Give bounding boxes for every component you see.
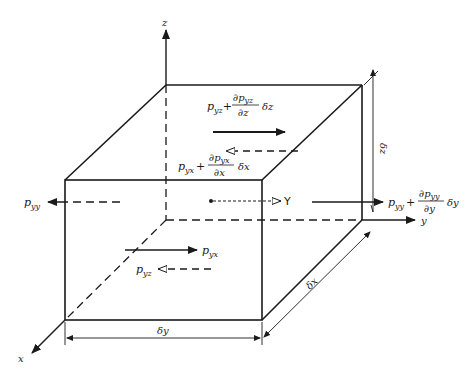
svg-text:δy: δy [447, 197, 459, 208]
svg-text:∂y: ∂y [424, 203, 435, 214]
x-axis-label: x [18, 353, 24, 364]
pyz-top-label: pyz+ ∂pyz ∂z δz [207, 92, 274, 118]
body-force-label: Y [283, 195, 291, 208]
x-axis [32, 320, 65, 353]
svg-text:∂z: ∂z [238, 107, 249, 118]
pyy-left-label: pyy [24, 196, 41, 211]
axes [32, 30, 415, 353]
svg-text:∂pyy: ∂pyy [419, 188, 440, 201]
body-force-point [209, 199, 213, 203]
pyx-front-label: pyx+ ∂pyx ∂x δx [178, 152, 250, 178]
pyx-label: pyx [202, 244, 219, 259]
y-axis-label: y [420, 215, 427, 226]
svg-text:∂pyz: ∂pyz [233, 92, 254, 105]
dx-label: δx [304, 275, 320, 291]
svg-text:∂x: ∂x [214, 167, 225, 178]
svg-text:∂pyx: ∂pyx [209, 152, 230, 165]
svg-text:δx: δx [238, 161, 250, 172]
svg-text:δz: δz [262, 101, 274, 112]
pyy-right-label: pyy+ ∂pyy ∂y δy [388, 188, 459, 214]
svg-text:pyz+: pyz+ [207, 100, 232, 115]
stress-element-diagram: z y x δy δz δx pyy Y [0, 0, 475, 377]
pyz-bottom-label: pyz [136, 263, 153, 278]
dz-label: δz [378, 143, 389, 155]
z-axis-label: z [161, 17, 168, 28]
svg-text:pyx+: pyx+ [178, 160, 205, 175]
svg-text:pyy+: pyy+ [388, 196, 415, 211]
dy-label: δy [157, 325, 169, 336]
